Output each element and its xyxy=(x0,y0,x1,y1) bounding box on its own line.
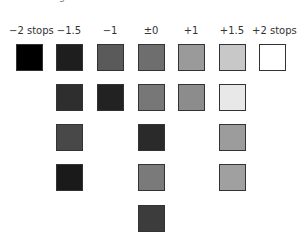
gray-swatch xyxy=(138,205,165,232)
column-label: +2 stops xyxy=(252,25,292,36)
gray-swatch xyxy=(178,84,205,111)
column-label: +1 xyxy=(171,25,211,36)
column-label: +1.5 xyxy=(212,25,252,36)
gray-swatch xyxy=(219,124,246,151)
column-label: −2 stops xyxy=(9,25,49,36)
gray-swatch xyxy=(219,44,246,71)
gray-swatch xyxy=(138,84,165,111)
gray-swatch xyxy=(56,164,83,191)
gray-swatch xyxy=(138,164,165,191)
column-label: ±0 xyxy=(131,25,171,36)
column-label: −1.5 xyxy=(49,25,89,36)
gray-swatch xyxy=(56,84,83,111)
gray-swatch xyxy=(138,44,165,71)
gray-swatch xyxy=(97,44,124,71)
gray-swatch xyxy=(178,44,205,71)
caption: ...bracketing in action xyxy=(0,0,113,2)
gray-swatch xyxy=(56,44,83,71)
gray-swatch xyxy=(259,44,286,71)
column-label: −1 xyxy=(90,25,130,36)
gray-swatch xyxy=(56,124,83,151)
gray-swatch xyxy=(219,164,246,191)
gray-swatch xyxy=(16,44,43,71)
gray-swatch xyxy=(97,84,124,111)
gray-swatch xyxy=(138,124,165,151)
gray-swatch xyxy=(219,84,246,111)
